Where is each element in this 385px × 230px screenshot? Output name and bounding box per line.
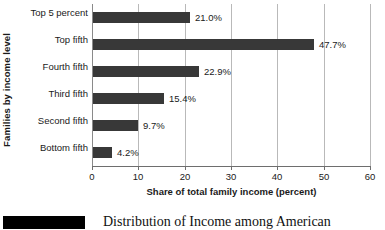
bar	[93, 39, 314, 50]
category-label: Top 5 percent	[14, 8, 88, 18]
x-tick	[370, 166, 371, 170]
caption-row: Distribution of Income among American	[0, 214, 385, 230]
x-tick-label: 10	[123, 172, 153, 182]
x-tick	[277, 166, 278, 170]
x-axis-title: Share of total family income (percent)	[92, 186, 371, 197]
bar-value-label: 21.0%	[195, 12, 222, 23]
bar-value-label: 9.7%	[143, 120, 165, 131]
bar-value-label: 47.7%	[319, 39, 346, 50]
y-axis-line	[92, 4, 93, 167]
category-label-column: Top 5 percent Top fifth Fourth fifth Thi…	[14, 4, 88, 166]
gridline	[138, 4, 139, 166]
x-tick-label: 50	[309, 172, 339, 182]
bar	[93, 93, 164, 104]
x-tick	[138, 166, 139, 170]
category-label: Top fifth	[14, 35, 88, 45]
x-tick-label: 20	[170, 172, 200, 182]
caption-text: Distribution of Income among American	[103, 214, 331, 230]
bar-chart-figure: Families by income level Top 5 percent T…	[0, 0, 385, 230]
bar	[93, 120, 138, 131]
bar	[93, 147, 112, 158]
category-label: Bottom fifth	[14, 143, 88, 153]
bar-value-label: 22.9%	[204, 66, 231, 77]
gridline	[324, 4, 325, 166]
x-tick-label: 40	[262, 172, 292, 182]
category-label: Third fifth	[14, 89, 88, 99]
gridline	[277, 4, 278, 166]
gridline	[370, 4, 371, 166]
x-tick-label: 0	[77, 172, 107, 182]
x-tick	[185, 166, 186, 170]
bar	[93, 12, 190, 23]
x-tick-label: 60	[355, 172, 385, 182]
bar	[93, 66, 199, 77]
x-tick-label: 30	[216, 172, 246, 182]
gridline	[231, 4, 232, 166]
x-tick	[231, 166, 232, 170]
category-label: Second fifth	[14, 116, 88, 126]
y-axis-title: Families by income level	[0, 5, 14, 175]
bar-value-label: 4.2%	[117, 147, 139, 158]
category-label: Fourth fifth	[14, 62, 88, 72]
gridline	[185, 4, 186, 166]
plot-area: 21.0%47.7%22.9%15.4%9.7%4.2%	[92, 4, 370, 166]
x-tick	[324, 166, 325, 170]
caption-swatch	[3, 216, 85, 229]
bar-value-label: 15.4%	[169, 93, 196, 104]
x-tick	[92, 166, 93, 170]
